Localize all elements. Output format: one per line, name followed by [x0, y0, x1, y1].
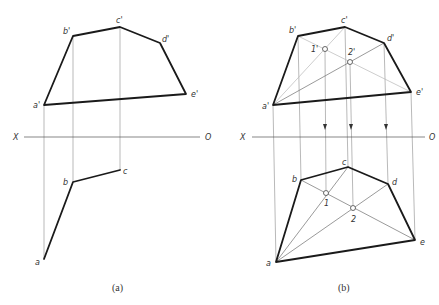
- label-b-prime: b': [63, 27, 70, 36]
- label-d-prime: d': [387, 34, 394, 43]
- label-c: c: [342, 158, 347, 167]
- point-1: [324, 191, 329, 196]
- label-a: a: [266, 259, 271, 268]
- label-a: a: [35, 258, 40, 267]
- axis-label-x: X: [12, 133, 19, 142]
- arrow-down-icon: [384, 124, 388, 130]
- label-a-prime: a': [262, 102, 269, 111]
- label-c-prime: c': [116, 16, 123, 25]
- label-d-prime: d': [162, 35, 169, 44]
- figure-b: a' b' c' d' e' 1' 2' X O b c d e 1 2 a (…: [239, 16, 435, 294]
- arrow-down-icon: [323, 124, 327, 130]
- axis-label-x: X: [239, 133, 246, 142]
- aux-line-a-c-prime: [273, 27, 345, 105]
- top-view-partial: [44, 170, 120, 259]
- point-2-prime: [348, 60, 353, 65]
- figure-a: a' b' c' d' e' X O b c a (a): [12, 16, 211, 294]
- label-e: e: [420, 238, 425, 247]
- orthographic-projection-diagram: a' b' c' d' e' X O b c a (a): [0, 0, 439, 305]
- label-c: c: [123, 167, 128, 176]
- label-1-prime: 1': [311, 45, 318, 54]
- point-1-prime: [323, 47, 328, 52]
- label-2: 2: [351, 215, 356, 224]
- label-b: b: [63, 178, 68, 187]
- label-e-prime: e': [416, 88, 423, 97]
- caption-a: (a): [112, 282, 123, 294]
- caption-b: (b): [338, 282, 350, 294]
- projector-1: [325, 51, 326, 190]
- aux-line-b-e: [301, 180, 415, 240]
- label-1: 1: [324, 199, 329, 208]
- label-c-prime: c': [341, 16, 348, 25]
- projector-a: [273, 105, 276, 262]
- aux-line-a-d: [276, 184, 388, 262]
- axis-label-o: O: [205, 133, 211, 142]
- label-b: b: [292, 175, 297, 184]
- projector-e: [411, 92, 415, 240]
- axis-label-o: O: [429, 133, 435, 142]
- projector-d: [384, 43, 388, 184]
- label-b-prime: b': [289, 26, 296, 35]
- label-a-prime: a': [33, 101, 40, 110]
- projector-b: [298, 36, 301, 180]
- label-d: d: [392, 178, 398, 187]
- arrow-down-icon: [349, 124, 353, 130]
- projector-2: [350, 64, 353, 205]
- aux-line-a-c: [276, 167, 348, 262]
- label-e-prime: e': [191, 90, 198, 99]
- point-2: [351, 206, 356, 211]
- label-2-prime: 2': [348, 48, 355, 57]
